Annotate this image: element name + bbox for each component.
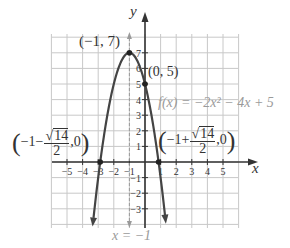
- right-intercept-prefix: −1+: [167, 132, 190, 147]
- fraction: √142: [44, 128, 69, 158]
- svg-text:−3: −3: [130, 204, 141, 215]
- svg-text:−4: −4: [77, 166, 88, 177]
- svg-text:3: 3: [189, 166, 194, 177]
- y-intercept-label: (0, 5): [148, 64, 178, 80]
- svg-text:4: 4: [136, 95, 141, 106]
- svg-text:−5: −5: [62, 166, 73, 177]
- open-paren: (: [12, 128, 21, 157]
- close-paren: ): [227, 126, 236, 155]
- svg-text:1: 1: [136, 141, 141, 152]
- sqrt-icon: √: [45, 128, 53, 143]
- axis-of-symmetry-label: x = −1: [112, 228, 151, 244]
- left-intercept-suffix: ,0: [70, 134, 81, 149]
- vertex-label: (−1, 7): [79, 33, 120, 50]
- svg-text:4: 4: [205, 166, 210, 177]
- right-intercept-radicand: 14: [199, 126, 214, 141]
- svg-text:−2: −2: [130, 188, 141, 199]
- left-intercept-prefix: −1−: [21, 134, 44, 149]
- left-x-intercept-label: (−1−√142,0): [12, 128, 89, 158]
- right-intercept-suffix: ,0: [216, 132, 227, 147]
- svg-text:2: 2: [136, 126, 141, 137]
- fraction: √142: [190, 126, 215, 156]
- y-axis-label: y: [130, 3, 137, 20]
- function-label: f(x) = −2x² − 4x + 5: [158, 95, 274, 111]
- right-x-intercept-label: (−1+√142,0): [158, 126, 235, 156]
- svg-text:5: 5: [221, 166, 226, 177]
- right-intercept-denominator: 2: [190, 142, 215, 156]
- left-intercept-denominator: 2: [44, 144, 69, 158]
- svg-text:2: 2: [174, 166, 179, 177]
- close-paren: ): [81, 128, 90, 157]
- svg-text:5: 5: [136, 79, 141, 90]
- parabola-chart: −5−4−3−2−112345−3−2−11234567: [0, 0, 290, 248]
- left-intercept-radicand: 14: [53, 128, 68, 143]
- svg-text:7: 7: [136, 48, 141, 59]
- x-axis-label: x: [252, 160, 259, 177]
- svg-text:3: 3: [136, 110, 141, 121]
- svg-text:−1: −1: [130, 173, 141, 184]
- svg-text:−2: −2: [108, 166, 119, 177]
- sqrt-icon: √: [191, 126, 199, 141]
- open-paren: (: [158, 126, 167, 155]
